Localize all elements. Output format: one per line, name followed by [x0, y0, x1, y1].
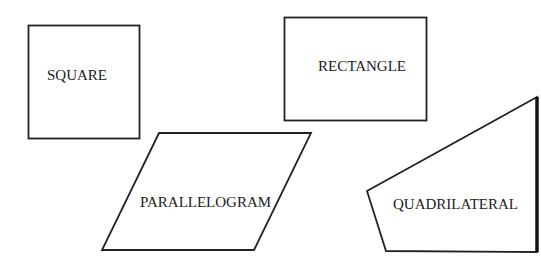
square-shape: SQUARE: [29, 26, 140, 139]
square-label: SQUARE: [47, 67, 107, 83]
rectangle-label: RECTANGLE: [318, 58, 406, 74]
parallelogram-label: PARALLELOGRAM: [140, 194, 271, 210]
quadrilateral-label: QUADRILATERAL: [393, 196, 518, 212]
parallelogram-shape: PARALLELOGRAM: [102, 133, 311, 250]
shapes-diagram: SQUARE RECTANGLE PARALLELOGRAM QUADRILAT…: [0, 0, 541, 266]
rectangle-shape: RECTANGLE: [285, 18, 427, 121]
